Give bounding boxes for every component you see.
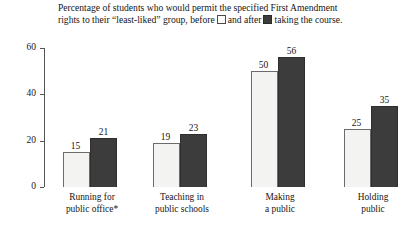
bar-value-label-after: 21 (90, 127, 117, 137)
bar-group: 1923Teaching inpublic schools (153, 48, 209, 187)
category-label-line: Teaching in (137, 192, 227, 204)
y-tick-label-60: 60 (14, 43, 36, 53)
bar-pair: 5056 (251, 48, 307, 187)
y-tick-mark-0 (40, 187, 44, 188)
category-label-line: a public (235, 204, 325, 216)
bar-value-label-after: 56 (278, 46, 305, 56)
bar-chart: 0204060 1521Running forpublic office*192… (0, 0, 416, 229)
bar-before[interactable] (251, 71, 278, 187)
y-tick-mark-40 (40, 94, 44, 95)
bar-after[interactable] (278, 57, 305, 187)
x-axis-category-label: Running forpublic office* (47, 192, 137, 215)
category-label-line: Making (235, 192, 325, 204)
x-axis-category-label: Holdingpublic (328, 192, 416, 215)
category-label-line: public schools (137, 204, 227, 216)
y-tick-label-20: 20 (14, 136, 36, 146)
x-axis-category-label: Makinga public (235, 192, 325, 215)
bar-before[interactable] (153, 143, 180, 187)
bar-value-label-before: 50 (250, 60, 277, 70)
category-label-line: public (328, 204, 416, 216)
bar-pair: 1521 (63, 48, 119, 187)
bar-pair: 2535 (344, 48, 400, 187)
category-label-line: Holding (328, 192, 416, 204)
bar-before[interactable] (344, 129, 371, 187)
y-tick-label-0: 0 (14, 182, 36, 192)
y-axis-line (44, 48, 45, 187)
bar-after[interactable] (90, 138, 117, 187)
bar-value-label-before: 19 (152, 132, 179, 142)
bar-group: 2535Holdingpublic (344, 48, 400, 187)
bar-value-label-before: 15 (62, 141, 89, 151)
bar-value-label-after: 23 (180, 123, 207, 133)
y-tick-mark-60 (40, 48, 44, 49)
y-tick-mark-20 (40, 141, 44, 142)
bar-group: 1521Running forpublic office* (63, 48, 119, 187)
bar-after[interactable] (180, 134, 207, 187)
bar-before[interactable] (63, 152, 90, 187)
x-axis-category-label: Teaching inpublic schools (137, 192, 227, 215)
bar-pair: 1923 (153, 48, 209, 187)
y-tick-label-40: 40 (14, 89, 36, 99)
bar-group: 5056Makinga public (251, 48, 307, 187)
category-label-line: public office* (47, 204, 137, 216)
bar-value-label-after: 35 (371, 95, 398, 105)
bar-value-label-before: 25 (343, 118, 370, 128)
bar-after[interactable] (371, 106, 398, 187)
category-label-line: Running for (47, 192, 137, 204)
